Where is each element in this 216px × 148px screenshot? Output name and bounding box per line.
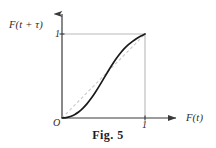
figure-container: F(t + τ) F(t) 1 1 O Fig. 5: [0, 0, 216, 148]
identity-reference-line: [62, 34, 145, 118]
figure-caption: Fig. 5: [0, 128, 216, 143]
x-axis-label: F(t): [186, 113, 203, 124]
origin-label: O: [53, 118, 60, 128]
y-axis-tick-label-one: 1: [55, 29, 60, 39]
y-axis-label: F(t + τ): [9, 20, 43, 31]
